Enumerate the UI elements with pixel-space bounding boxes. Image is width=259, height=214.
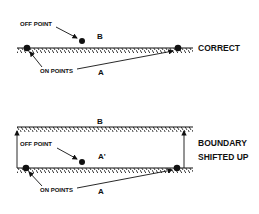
on-point-left [24, 45, 31, 52]
off-point-label: OFF POINT [20, 141, 52, 147]
shifted-caption-line2: SHIFTED UP [198, 152, 249, 162]
region-a-label: A [98, 68, 104, 77]
shifted-boundary-hatching [17, 127, 193, 132]
off-point-arrow [57, 148, 77, 159]
region-b-label: B [97, 117, 103, 126]
on-point-arrow-left [29, 172, 42, 186]
on-points-label: ON POINTS [40, 187, 73, 193]
on-point-right [174, 165, 181, 172]
region-b-label: B [97, 32, 103, 41]
boundary-diagram: OFF POINT ON POINTS B A CORRECT OFF POIN… [0, 0, 259, 214]
on-point-arrow-right [77, 51, 173, 69]
on-points-label: ON POINTS [40, 68, 73, 74]
on-point-arrow-left [30, 52, 42, 67]
off-point-label: OFF POINT [20, 21, 52, 27]
region-a-label: A [98, 187, 104, 196]
off-point-arrow [56, 27, 77, 38]
shifted-caption-line1: BOUNDARY [198, 138, 247, 148]
on-point-left [23, 165, 30, 172]
original-boundary-hatching [17, 168, 193, 173]
correct-diagram: OFF POINT ON POINTS B A CORRECT [17, 21, 241, 77]
correct-caption: CORRECT [198, 43, 241, 53]
on-point-right [175, 45, 182, 52]
off-point [79, 38, 85, 44]
shifted-diagram: OFF POINT ON POINTS B A' A BOUNDARY SHIF… [17, 117, 249, 196]
region-a-prime-label: A' [98, 152, 106, 161]
off-point [79, 159, 85, 165]
